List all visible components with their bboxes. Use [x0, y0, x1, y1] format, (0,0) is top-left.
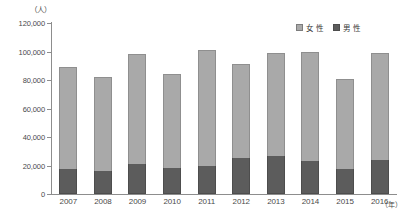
bar-segment-female: [232, 64, 250, 158]
y-axis-tick-label: 40,000: [23, 133, 45, 142]
bar-segment-female: [198, 50, 216, 165]
stacked-bar: [232, 64, 250, 194]
stacked-bar: [371, 53, 389, 194]
bar-slot: [293, 23, 328, 194]
stacked-bar: [163, 74, 181, 194]
x-axis-tick-label: 2007: [51, 197, 86, 211]
legend-item-female: 女 性: [296, 22, 324, 33]
stacked-bar: [198, 50, 216, 194]
bar-segment-female: [267, 53, 285, 156]
x-axis-tick-label: 2015: [328, 197, 363, 211]
bar-segment-female: [59, 67, 77, 169]
x-axis-tick-label: 2011: [189, 197, 224, 211]
x-axis-tick-labels: 2007200820092010201120122013201420152016: [51, 197, 397, 211]
bar-segment-male: [371, 160, 389, 194]
chart-legend: 女 性 男 性: [296, 22, 361, 33]
stacked-bar: [336, 79, 354, 194]
bar-slot: [120, 23, 155, 194]
bar-slot: [51, 23, 86, 194]
bar-segment-female: [94, 77, 112, 170]
bar-segment-male: [163, 168, 181, 194]
y-axis-tick-label: 80,000: [23, 76, 45, 85]
bar-segment-male: [59, 169, 77, 194]
legend-swatch-male-icon: [333, 24, 340, 31]
bar-slot: [86, 23, 121, 194]
y-axis-tick-label: 100,000: [19, 47, 45, 56]
stacked-bar-chart: （人） 020,00040,00060,00080,000100,000120,…: [0, 0, 405, 214]
bar-slot: [328, 23, 363, 194]
x-axis-unit-label: （年）: [381, 199, 402, 209]
bar-series-group: [51, 23, 397, 194]
stacked-bar: [94, 77, 112, 194]
y-axis-unit-label: （人）: [30, 4, 52, 15]
bar-segment-male: [267, 156, 285, 194]
bar-segment-female: [128, 54, 146, 164]
y-axis-tick-label: 120,000: [19, 19, 45, 28]
bar-segment-female: [301, 52, 319, 161]
bar-segment-female: [163, 74, 181, 167]
x-axis-tick-label: 2009: [120, 197, 155, 211]
x-axis-tick-label: 2012: [224, 197, 259, 211]
stacked-bar: [59, 67, 77, 194]
bar-slot: [155, 23, 190, 194]
bar-segment-male: [128, 164, 146, 194]
bar-segment-male: [198, 166, 216, 195]
x-axis-tick-label: 2013: [259, 197, 294, 211]
bar-segment-male: [301, 161, 319, 194]
legend-label-female: 女 性: [306, 22, 324, 33]
stacked-bar: [301, 52, 319, 194]
y-axis-tick-label: 0: [41, 190, 45, 199]
y-axis-tick: [47, 194, 51, 195]
x-axis-tick-label: 2008: [86, 197, 121, 211]
bar-slot: [259, 23, 294, 194]
y-axis-tick-label: 20,000: [23, 161, 45, 170]
legend-label-male: 男 性: [343, 22, 361, 33]
stacked-bar: [267, 53, 285, 194]
bar-segment-male: [232, 158, 250, 194]
bar-slot: [224, 23, 259, 194]
bar-slot: [362, 23, 397, 194]
bar-segment-male: [336, 169, 354, 194]
y-axis-tick-label: 60,000: [23, 104, 45, 113]
legend-item-male: 男 性: [333, 22, 361, 33]
bar-segment-female: [336, 79, 354, 169]
x-axis-tick-label: 2014: [293, 197, 328, 211]
legend-swatch-female-icon: [296, 24, 303, 31]
x-axis-line: [51, 194, 397, 195]
x-axis-tick-label: 2010: [155, 197, 190, 211]
stacked-bar: [128, 54, 146, 194]
bar-segment-female: [371, 53, 389, 160]
bar-slot: [189, 23, 224, 194]
bar-segment-male: [94, 171, 112, 195]
